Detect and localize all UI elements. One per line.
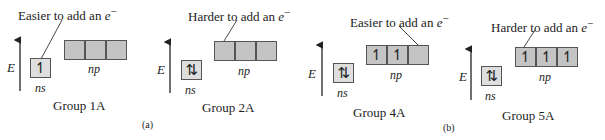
ns-label: ns xyxy=(185,84,196,96)
np-orbital-box-3 xyxy=(256,41,277,61)
np-label: np xyxy=(390,69,402,81)
np-label: np xyxy=(539,71,551,83)
annotation-easier-4a: Easier to add an e− xyxy=(350,13,449,29)
ns-orbital-box: ⇅ xyxy=(181,60,202,80)
group-label-2a: Group 2A xyxy=(202,101,254,114)
ns-label: ns xyxy=(35,82,46,94)
np-label: np xyxy=(238,65,250,77)
ns-orbital-box: ⇅ xyxy=(333,63,354,83)
electron-charge: − xyxy=(110,5,116,17)
energy-axis-label: E xyxy=(308,67,316,80)
np-orbital-box-2 xyxy=(85,40,106,60)
np-orbital-box-1: ↿ xyxy=(366,45,387,65)
np-orbital-box-2: ↿ xyxy=(387,45,408,65)
np-orbital-box-3 xyxy=(408,45,429,65)
energy-axis-label: E xyxy=(157,63,165,76)
electron-charge: − xyxy=(587,17,593,29)
annotation-text: Easier to add an xyxy=(350,15,433,30)
np-label: np xyxy=(88,63,100,75)
annotation-harder-2a: Harder to add an e− xyxy=(188,7,290,23)
group-label-1a: Group 1A xyxy=(53,99,105,112)
annotation-easier-1a: Easier to add an e− xyxy=(18,6,117,22)
np-orbital-box-2 xyxy=(235,41,256,61)
np-orbital-box-1: ↿ xyxy=(515,47,536,67)
annotation-text: Harder to add an xyxy=(188,9,275,24)
energy-axis-label: E xyxy=(7,61,15,74)
np-orbital-box-2: ↿ xyxy=(536,47,557,67)
np-orbital-box-1 xyxy=(214,41,235,61)
ns-label: ns xyxy=(485,90,496,102)
electron-charge: − xyxy=(284,6,290,18)
leader-line-1a xyxy=(41,20,62,59)
ns-orbital-box: ↿ xyxy=(30,58,51,78)
ns-label: ns xyxy=(337,87,348,99)
group-label-5a: Group 5A xyxy=(502,109,554,122)
group-label-4a: Group 4A xyxy=(353,106,405,119)
annotation-harder-5a: Harder to add an e− xyxy=(491,18,593,34)
np-orbital-box-3: ↿ xyxy=(557,47,578,67)
ns-orbital-box: ⇅ xyxy=(481,66,502,86)
subfigure-label-b: (b) xyxy=(443,122,455,133)
electron-charge: − xyxy=(442,12,448,24)
subfigure-label-a: (a) xyxy=(142,119,153,130)
np-orbital-box-3 xyxy=(106,40,127,60)
np-orbital-box-1 xyxy=(64,40,85,60)
annotation-text: Easier to add an xyxy=(18,8,101,23)
energy-axis-label: E xyxy=(459,70,467,83)
annotation-text: Harder to add an xyxy=(491,20,578,35)
